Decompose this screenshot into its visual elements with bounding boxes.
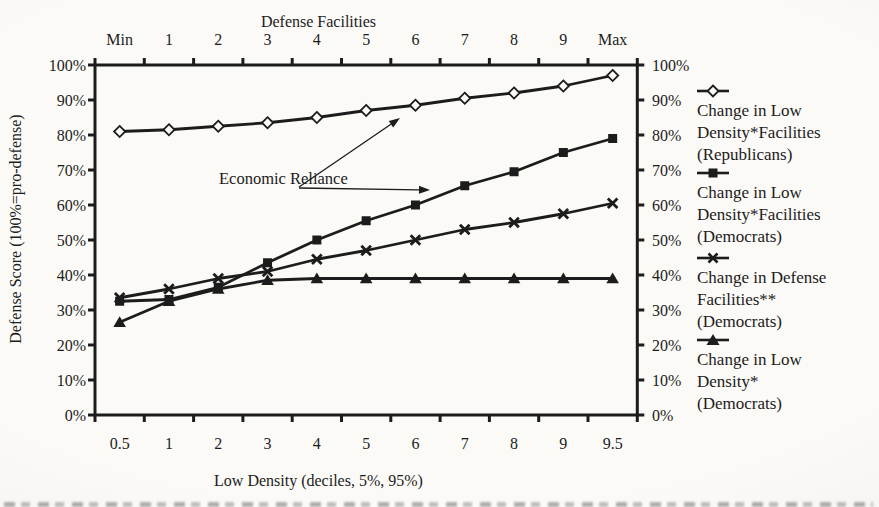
bottom-axis-title: Low Density (deciles, 5%, 95%)	[0, 472, 637, 490]
right-axis-tick-label: 30%	[652, 302, 681, 319]
diamond-marker-icon	[508, 87, 519, 98]
diamond-marker-icon	[262, 117, 273, 128]
x-axis-tick-label: 9	[559, 435, 567, 452]
y-axis-tick-label: 0%	[65, 407, 86, 424]
top-axis-tick-label: 4	[313, 31, 321, 48]
y-axis-tick-label: 80%	[57, 127, 86, 144]
y-axis-tick-label: 50%	[57, 232, 86, 249]
legend-label: Change in Low Density*Facilities (Republ…	[697, 100, 875, 166]
x-axis-tick-label: 7	[461, 435, 469, 452]
square-marker-icon	[312, 236, 321, 245]
right-axis-tick-label: 0%	[652, 407, 673, 424]
square-marker-icon	[559, 148, 568, 157]
legend-label-line: Facilities**	[697, 289, 875, 311]
diamond-marker-icon	[114, 126, 125, 137]
diamond-marker-icon	[361, 105, 372, 116]
x-axis-tick-label: 8	[510, 435, 518, 452]
diamond-marker-icon	[459, 93, 470, 104]
legend-entry-democrats-density: Change in Low Density* (Democrats)	[697, 327, 875, 415]
left-axis-title: Defense Score (100%=pro-defense)	[7, 89, 25, 369]
top-axis-title: Defense Facilities	[0, 13, 637, 31]
legend-label-line: Density*Facilities	[697, 122, 875, 144]
legend-label: Change in Low Density*Facilities (Democr…	[697, 182, 875, 248]
square-marker-icon	[608, 134, 617, 143]
right-axis-tick-label: 40%	[652, 267, 681, 284]
cropped-caption-text	[4, 502, 873, 507]
x-axis-tick-label: 2	[214, 435, 222, 452]
x-axis-tick-label: 0.5	[110, 435, 130, 452]
top-axis-tick-label: 5	[362, 31, 370, 48]
annotation-economic-reliance: Economic Reliance	[219, 167, 348, 190]
plot-border	[95, 65, 637, 415]
square-marker-icon	[362, 216, 371, 225]
right-axis-tick-label: 100%	[652, 57, 689, 74]
square-marker-icon	[460, 181, 469, 190]
x-axis-tick-label: 1	[165, 435, 173, 452]
y-axis-tick-label: 40%	[57, 267, 86, 284]
x-axis-tick-label: 6	[411, 435, 419, 452]
series-line-0	[120, 76, 613, 132]
x-axis-tick-label: 3	[264, 435, 272, 452]
diamond-marker-icon	[558, 80, 569, 91]
right-axis-tick-label: 60%	[652, 197, 681, 214]
x-marker-icon	[697, 249, 729, 263]
y-axis-tick-label: 10%	[57, 372, 86, 389]
right-axis-tick-label: 50%	[652, 232, 681, 249]
right-axis-tick-label: 20%	[652, 337, 681, 354]
y-axis-tick-label: 30%	[57, 302, 86, 319]
diamond-marker-icon	[607, 70, 618, 81]
legend-entry-democrats-density-facilities: Change in Low Density*Facilities (Democr…	[697, 160, 875, 248]
top-axis-tick-label: 7	[461, 31, 469, 48]
top-axis-tick-label: 8	[510, 31, 518, 48]
diamond-marker-icon	[311, 112, 322, 123]
top-axis-tick-label: 9	[559, 31, 567, 48]
legend-label-line: Change in Low	[697, 349, 875, 371]
legend-label-line: Change in Defense	[697, 267, 875, 289]
y-axis-tick-label: 20%	[57, 337, 86, 354]
legend-label-line: Density*	[697, 371, 875, 393]
diamond-marker-icon	[697, 82, 729, 96]
y-axis-tick-label: 60%	[57, 197, 86, 214]
y-axis-tick-label: 100%	[49, 57, 86, 74]
legend-entry-republicans: Change in Low Density*Facilities (Republ…	[697, 78, 875, 166]
x-axis-tick-label: 4	[313, 435, 321, 452]
triangle-marker-icon	[697, 331, 729, 345]
top-axis-tick-label: 2	[214, 31, 222, 48]
square-marker-icon	[263, 258, 272, 267]
right-axis-tick-label: 90%	[652, 92, 681, 109]
diamond-marker-icon	[410, 100, 421, 111]
legend-entry-democrats-facilities: Change in Defense Facilities** (Democrat…	[697, 245, 875, 333]
top-axis-tick-label: 3	[264, 31, 272, 48]
x-axis-tick-label: 9.5	[603, 435, 623, 452]
right-axis-tick-label: 80%	[652, 127, 681, 144]
legend-label-line: Change in Low	[697, 182, 875, 204]
right-axis-tick-label: 10%	[652, 372, 681, 389]
diamond-marker-icon	[213, 121, 224, 132]
top-axis-tick-label: 1	[165, 31, 173, 48]
annotation-arrowhead	[389, 118, 400, 128]
y-axis-tick-label: 70%	[57, 162, 86, 179]
square-marker-icon	[411, 201, 420, 210]
top-axis-tick-label: Min	[106, 31, 133, 48]
legend-label: Change in Defense Facilities** (Democrat…	[697, 267, 875, 333]
square-marker-icon	[510, 167, 519, 176]
scanned-chart-figure: 0%0%10%10%20%20%30%30%40%40%50%50%60%60%…	[0, 0, 879, 507]
top-axis-tick-label: 6	[411, 31, 419, 48]
right-axis-tick-label: 70%	[652, 162, 681, 179]
annotation-arrowhead	[419, 186, 430, 194]
legend-label-line: Density*Facilities	[697, 204, 875, 226]
y-axis-tick-label: 90%	[57, 92, 86, 109]
legend-label-line: (Democrats)	[697, 393, 875, 415]
legend-label-line: Change in Low	[697, 100, 875, 122]
annotation-line-1: Economic	[219, 169, 286, 188]
diamond-marker-icon	[163, 124, 174, 135]
top-axis-tick-label: Max	[598, 31, 627, 48]
annotation-line-2: Reliance	[290, 169, 348, 188]
legend-label: Change in Low Density* (Democrats)	[697, 349, 875, 415]
x-axis-tick-label: 5	[362, 435, 370, 452]
square-marker-icon	[697, 164, 729, 178]
